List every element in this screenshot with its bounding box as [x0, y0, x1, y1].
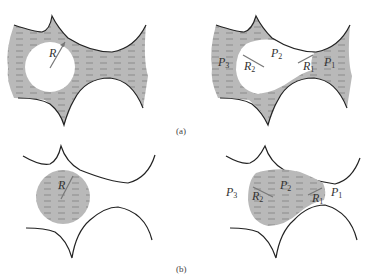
p1-label: P1 — [330, 185, 342, 200]
pore-throat-diagram: R P3 P2 P1 R2 R1 (a) R P3 P2 P1 R2 R1 — [0, 0, 368, 279]
panel-a-right: P3 P2 P1 R2 R1 — [211, 16, 352, 125]
radius-label: R — [57, 178, 66, 192]
panel-b-left: R — [23, 146, 155, 258]
radius-label: R — [48, 46, 57, 60]
p3-label: P3 — [225, 185, 237, 200]
caption-a: (a) — [176, 126, 186, 136]
caption-b: (b) — [176, 264, 187, 274]
upper-wall — [23, 146, 155, 183]
panel-b-right: P3 P2 P1 R2 R1 — [225, 146, 360, 258]
panel-a-left: R — [7, 16, 148, 125]
